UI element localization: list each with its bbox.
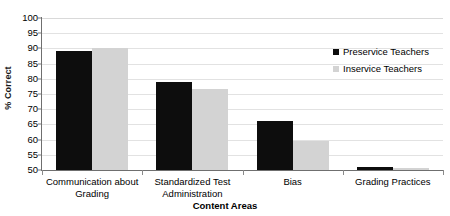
- y-axis-tick-label: 95: [14, 28, 38, 38]
- gray-square-icon: [333, 66, 339, 72]
- legend-item: Preservice Teachers: [333, 44, 443, 59]
- y-axis-tick-label: 90: [14, 44, 38, 54]
- bar-0-0: [56, 51, 92, 170]
- legend-item: Inservice Teachers: [333, 61, 443, 76]
- legend-item-label: Inservice Teachers: [343, 63, 422, 74]
- y-axis-tick-label: 85: [14, 59, 38, 69]
- y-axis-tick-label: 75: [14, 89, 38, 99]
- y-axis-tick-label: 70: [14, 104, 38, 114]
- bar-1-1: [192, 89, 228, 170]
- plot-area: [42, 18, 443, 170]
- y-axis-line: [41, 17, 42, 171]
- bar-1-2: [293, 141, 329, 170]
- gridline: [42, 33, 443, 34]
- x-axis-category-label: Communication about Grading: [42, 176, 142, 199]
- gridline: [42, 18, 443, 19]
- y-axis-tick-label: 80: [14, 74, 38, 84]
- bar-1-0: [92, 48, 128, 170]
- x-axis-category-labels: Communication about GradingStandardized …: [42, 176, 443, 202]
- bar-chart: % Correct 10095908580757065605550 Commun…: [0, 0, 450, 216]
- x-axis-tick-mark: [443, 170, 444, 175]
- black-square-icon: [333, 49, 339, 55]
- x-axis-tick-mark: [42, 170, 43, 175]
- y-axis-tick-label: 60: [14, 135, 38, 145]
- chart-legend: Preservice TeachersInservice Teachers: [333, 44, 443, 78]
- x-axis-category-label: Grading Practices: [343, 176, 443, 188]
- x-axis-tick-mark: [142, 170, 143, 175]
- x-axis-tick-mark: [343, 170, 344, 175]
- x-axis-category-label: Bias: [243, 176, 343, 188]
- x-axis-tick-mark: [243, 170, 244, 175]
- y-axis-title-label: % Correct: [3, 66, 13, 109]
- x-axis-title: Content Areas: [0, 200, 450, 211]
- bar-0-1: [156, 82, 192, 170]
- y-axis-tick-labels: 10095908580757065605550: [14, 18, 38, 170]
- y-axis-tick-label: 50: [14, 165, 38, 175]
- y-axis-tick-label: 55: [14, 150, 38, 160]
- y-axis-tick-label: 100: [14, 13, 38, 23]
- x-axis-category-label: Standardized Test Administration: [142, 176, 242, 199]
- legend-item-label: Preservice Teachers: [343, 46, 429, 57]
- y-axis-tick-label: 65: [14, 120, 38, 130]
- bar-0-2: [257, 121, 293, 170]
